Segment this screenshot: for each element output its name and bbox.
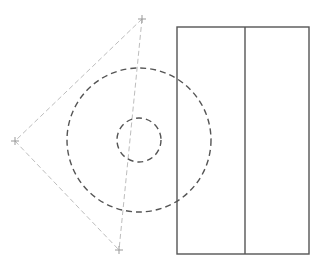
- rectangle-outline: [177, 27, 309, 254]
- construction-polygon: [15, 19, 142, 250]
- dashed-circles: [67, 68, 211, 212]
- outer-dashed-circle: [67, 68, 211, 212]
- construction-line-left-bottom: [15, 141, 119, 250]
- construction-line-top-bottom: [119, 19, 142, 250]
- split-rectangle: [177, 27, 309, 254]
- point-markers: [11, 15, 146, 254]
- diagram-canvas: [0, 0, 321, 268]
- construction-line-top-left: [15, 19, 142, 141]
- inner-dashed-circle: [117, 118, 161, 162]
